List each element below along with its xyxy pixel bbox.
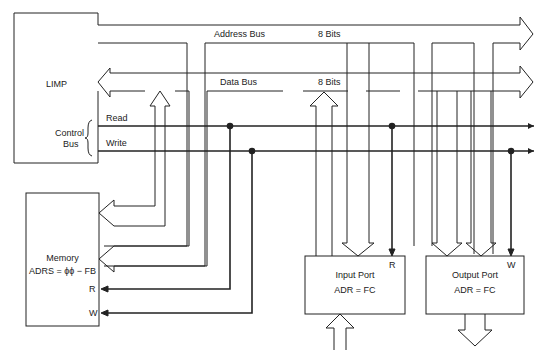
memory-control-wires <box>106 124 255 314</box>
limp-label: LIMP <box>46 80 67 89</box>
input-port-pin-r: R <box>389 261 396 270</box>
input-port-address: ADR = FC <box>305 286 405 295</box>
output-port-links <box>432 91 496 346</box>
data-bus-label: Data Bus <box>220 78 257 87</box>
data-bus-width: 8 Bits <box>318 78 341 87</box>
output-port-pin-w: W <box>507 261 516 270</box>
memory-w-arrow-icon <box>101 310 108 316</box>
input-port-links <box>310 43 374 350</box>
input-r-arrow-icon <box>389 249 395 256</box>
input-port-label: Input Port <box>305 271 405 280</box>
diagram-canvas <box>0 0 548 359</box>
read-line-label: Read <box>106 114 128 123</box>
output-port-write-wire <box>509 149 514 251</box>
control-bus-brace <box>85 120 92 156</box>
memory-pin-w: W <box>89 309 98 318</box>
output-port-label: Output Port <box>426 271 524 280</box>
control-bus-label-1: Control <box>55 129 84 138</box>
memory-address: ADRS = ϕϕ − FB <box>26 267 99 276</box>
input-port-read-wire <box>390 124 395 251</box>
address-bus-width: 8 Bits <box>318 30 341 39</box>
write-arrow-icon <box>528 148 534 154</box>
output-port-address: ADR = FC <box>426 286 524 295</box>
write-line-label: Write <box>106 139 127 148</box>
memory-pin-r: R <box>89 285 96 294</box>
output-w-arrow-icon <box>508 249 514 256</box>
memory-address-link <box>114 91 207 272</box>
memory-r-arrow-icon <box>101 286 108 292</box>
read-arrow-icon <box>528 123 534 129</box>
memory-label: Memory <box>26 254 99 263</box>
data-bus <box>98 66 533 98</box>
address-bus-label: Address Bus <box>214 30 265 39</box>
control-bus-label-2: Bus <box>63 140 79 149</box>
